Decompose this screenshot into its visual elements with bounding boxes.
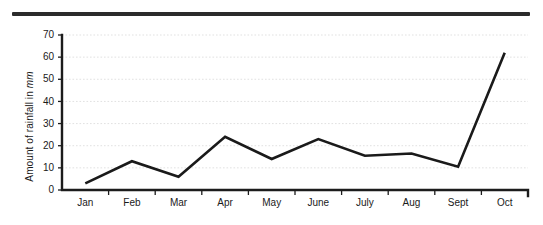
y-axis-tick-label: 30: [43, 118, 55, 129]
y-axis-tick-labels: 010203040506070: [43, 29, 55, 195]
x-axis-tick-label: Sept: [448, 197, 469, 208]
x-axis-tick-label: Jan: [77, 197, 93, 208]
x-axis-tick-labels: JanFebMarAprMayJuneJulyAugSeptOct: [77, 197, 512, 208]
x-axis-tick-label: Feb: [123, 197, 141, 208]
line-chart: 010203040506070 JanFebMarAprMayJuneJulyA…: [0, 0, 543, 225]
y-axis-tick-label: 20: [43, 140, 55, 151]
y-axis-tick-label: 10: [43, 162, 55, 173]
y-axis-tick-label: 70: [43, 29, 55, 40]
rainfall-line: [85, 53, 504, 184]
x-axis-tick-label: May: [262, 197, 281, 208]
x-axis-tick-label: Mar: [170, 197, 188, 208]
x-axis-tick-label: Oct: [497, 197, 513, 208]
y-axis-tick-label: 50: [43, 73, 55, 84]
x-axis-tick-label: July: [356, 197, 374, 208]
x-axis-tick-label: June: [307, 197, 329, 208]
y-axis-tick-label: 40: [43, 96, 55, 107]
x-axis-tick-label: Aug: [403, 197, 421, 208]
y-axis-tick-label: 0: [48, 184, 54, 195]
y-axis-tick-label: 60: [43, 51, 55, 62]
axis-lines: [62, 35, 528, 196]
data-series: [85, 53, 504, 184]
x-axis-tick-label: Apr: [217, 197, 233, 208]
axis-frame: [62, 35, 528, 196]
chart-canvas: 010203040506070 JanFebMarAprMayJuneJulyA…: [0, 0, 543, 225]
